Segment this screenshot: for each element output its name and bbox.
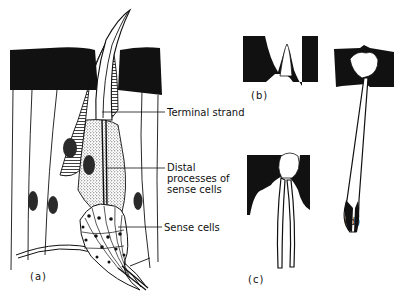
cuticle-left <box>10 47 98 90</box>
label-distal-line2: processes of <box>167 173 230 184</box>
dendrite-strand-c <box>277 178 285 268</box>
panel-d-drawing <box>334 45 394 232</box>
panel-c-drawing <box>247 153 310 268</box>
panel-label-a: (a) <box>30 271 47 282</box>
label-distal-processes: Distal processes of sense cells <box>167 162 230 195</box>
sensillum-diagram <box>0 0 402 291</box>
label-sense-cells: Sense cells <box>164 222 220 233</box>
label-distal-line1: Distal <box>167 162 230 173</box>
cuticle-right <box>118 47 162 95</box>
panel-b-drawing <box>243 36 318 86</box>
panel-label-c: (c) <box>248 274 264 285</box>
label-terminal-strand: Terminal strand <box>167 107 245 118</box>
panel-label-b: (b) <box>251 90 268 101</box>
label-distal-line3: sense cells <box>167 184 230 195</box>
panel-a-drawing <box>10 10 162 290</box>
panel-label-d: (d) <box>344 216 361 227</box>
